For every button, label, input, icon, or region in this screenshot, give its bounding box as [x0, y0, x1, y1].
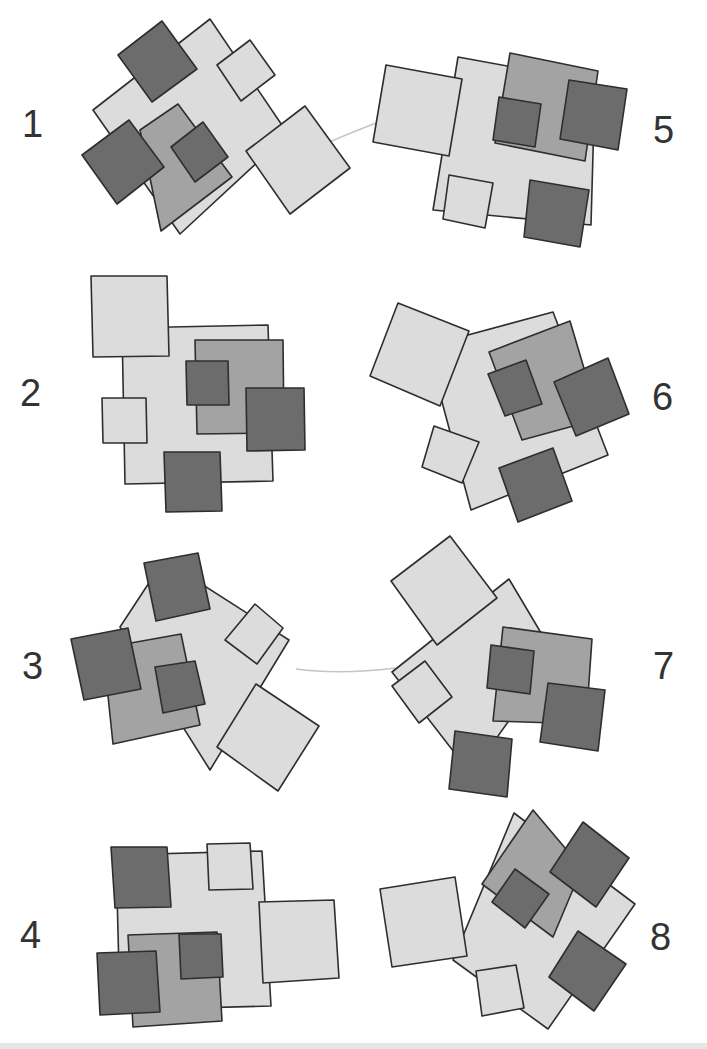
figure-2: [91, 276, 305, 512]
diagram-canvas: [0, 0, 707, 1049]
light-square: [373, 65, 462, 156]
dark-square: [449, 731, 512, 797]
figure-label-3: 3: [22, 647, 43, 685]
figure-label-1: 1: [22, 105, 43, 143]
bottom-edge: [0, 1043, 707, 1049]
dark-square: [540, 683, 605, 751]
figure-label-2: 2: [20, 374, 41, 412]
figure-label-4: 4: [20, 916, 41, 954]
light-square: [259, 900, 339, 983]
dark-square: [97, 951, 160, 1015]
connector-line: [296, 668, 395, 672]
light-square: [91, 276, 169, 357]
light-square: [443, 175, 493, 228]
dark-square: [179, 934, 223, 979]
light-square: [476, 965, 524, 1016]
dark-square: [164, 452, 222, 512]
dark-square: [186, 361, 229, 405]
figure-label-6: 6: [652, 378, 673, 416]
figure-6: [370, 303, 629, 522]
figure-5: [373, 53, 627, 247]
dark-square: [144, 553, 210, 621]
figure-label-5: 5: [653, 111, 674, 149]
figure-1: [82, 19, 350, 234]
dark-square: [487, 645, 534, 694]
dark-square: [493, 97, 541, 147]
dark-square: [71, 628, 141, 700]
dark-square: [560, 80, 627, 150]
light-square: [102, 398, 147, 443]
dark-square: [524, 180, 589, 247]
figure-4: [97, 843, 339, 1027]
light-square: [380, 877, 467, 967]
figure-label-7: 7: [653, 647, 674, 685]
dark-square: [246, 388, 305, 451]
figure-8: [380, 810, 635, 1029]
figure-7: [391, 536, 605, 797]
dark-square: [155, 661, 205, 713]
dark-square: [111, 847, 171, 908]
figure-3: [71, 553, 319, 791]
figure-label-8: 8: [650, 918, 671, 956]
light-square: [207, 843, 253, 890]
